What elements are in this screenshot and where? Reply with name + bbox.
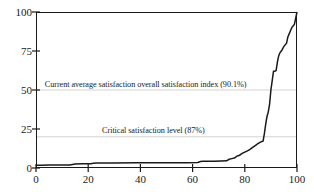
chart-canvas [0,0,314,196]
annotation-critical-satisfaction: Critical satisfaction level (87%) [102,126,205,135]
axis-ticks [32,12,297,172]
annotation-average-satisfaction: Current average satisfaction overall sat… [45,80,247,89]
chart-figure: 100 75 50 25 0 0 20 40 60 80 100 Current… [0,0,314,196]
